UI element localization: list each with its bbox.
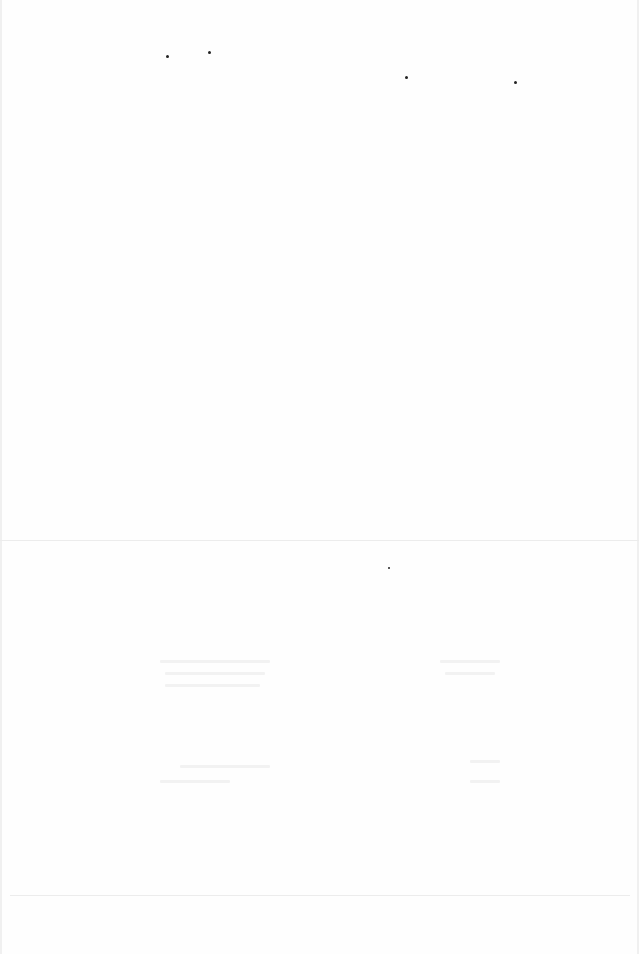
- illegible-text-line: [165, 672, 265, 675]
- illegible-text-line: [445, 672, 495, 675]
- illegible-text-line: [165, 684, 260, 687]
- speck-mark: [388, 567, 390, 569]
- illegible-text-line: [470, 780, 500, 783]
- illegible-text-line: [160, 780, 230, 783]
- speck-mark: [166, 55, 169, 58]
- illegible-text-line: [470, 760, 500, 763]
- scanned-page: [0, 0, 639, 954]
- faint-rule: [10, 895, 630, 896]
- illegible-text-line: [180, 765, 270, 768]
- illegible-text-line: [440, 660, 500, 663]
- illegible-text-line: [160, 660, 270, 663]
- page-edge-left: [0, 0, 2, 954]
- speck-mark: [405, 76, 408, 79]
- faint-rule: [0, 540, 639, 541]
- speck-mark: [514, 81, 517, 84]
- speck-mark: [208, 51, 211, 54]
